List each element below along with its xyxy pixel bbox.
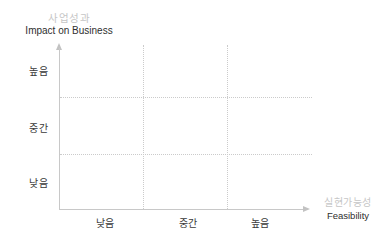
gridline-vertical-2 (227, 45, 228, 209)
y-tick-low: 낮음 (10, 178, 48, 189)
gridline-vertical-1 (143, 45, 144, 209)
x-tick-medium: 중간 (166, 218, 210, 229)
y-axis-title-block: 사업성과 Impact on Business (14, 12, 124, 37)
y-axis-title-korean: 사업성과 (14, 12, 124, 24)
x-axis-title-english: Feasibility (318, 210, 378, 222)
x-axis-line (59, 209, 304, 210)
x-tick-high: 높음 (238, 218, 282, 229)
y-axis-line (59, 48, 60, 210)
y-tick-high: 높음 (10, 66, 48, 77)
y-tick-medium: 중간 (10, 123, 48, 134)
x-axis-arrow-icon (303, 206, 310, 212)
gridline-horizontal-1 (60, 97, 312, 98)
x-tick-low: 낮음 (83, 218, 127, 229)
y-axis-title-english: Impact on Business (14, 25, 124, 37)
gridline-horizontal-2 (60, 154, 312, 155)
x-axis-title-korean: 실현가능성 (318, 197, 378, 209)
x-axis-title-block: 실현가능성 Feasibility (318, 197, 378, 222)
priority-matrix-chart: 사업성과 Impact on Business 높음 중간 낮음 낮음 중간 높… (0, 0, 389, 247)
